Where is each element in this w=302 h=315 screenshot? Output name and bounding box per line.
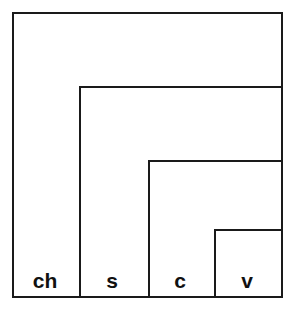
- nested-containment-diagram: ch s c v: [0, 0, 302, 315]
- label-v: v: [241, 269, 253, 292]
- rect-ch: [13, 13, 282, 297]
- label-c: c: [174, 269, 186, 292]
- label-s: s: [106, 269, 118, 292]
- label-ch: ch: [33, 269, 58, 292]
- diagram-canvas: ch s c v: [0, 0, 302, 315]
- rect-s: [80, 87, 282, 297]
